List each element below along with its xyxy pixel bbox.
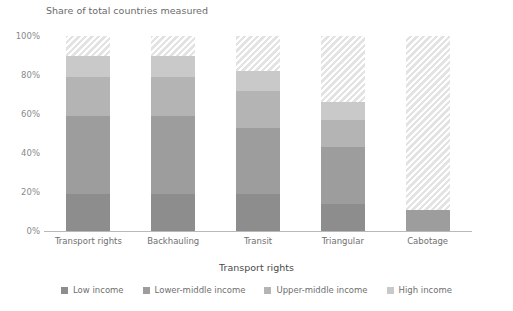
bar-segment[interactable]	[236, 36, 280, 71]
x-axis-line	[44, 231, 472, 232]
legend-label: Low income	[73, 285, 124, 295]
plot-area	[46, 36, 470, 231]
bar-group[interactable]	[66, 36, 110, 231]
bar-series-area	[46, 36, 470, 231]
legend-label: Upper-middle income	[276, 285, 367, 295]
chart-title: Share of total countries measured	[46, 5, 208, 16]
bar-group[interactable]	[321, 36, 365, 231]
x-axis-tick-label: Triangular	[322, 236, 364, 246]
bar-segment[interactable]	[151, 194, 195, 231]
chart-legend: Low incomeLower-middle incomeUpper-middl…	[0, 285, 513, 295]
bar-segment[interactable]	[321, 204, 365, 231]
legend-swatch-icon	[61, 287, 68, 294]
bar-segment[interactable]	[321, 147, 365, 204]
bar-segment[interactable]	[406, 36, 450, 210]
chart-container: Share of total countries measured 100% 8…	[0, 0, 513, 311]
legend-swatch-icon	[264, 287, 271, 294]
legend-swatch-icon	[387, 287, 394, 294]
bar-group[interactable]	[151, 36, 195, 231]
bar-segment[interactable]	[66, 36, 110, 56]
y-axis-tick-20: 20%	[21, 187, 40, 197]
x-axis-title: Transport rights	[0, 262, 513, 273]
x-axis-tick-label: Backhauling	[147, 236, 199, 246]
legend-label: Lower-middle income	[155, 285, 246, 295]
x-axis-tick-label: Transport rights	[55, 236, 122, 246]
bar-segment[interactable]	[321, 36, 365, 102]
y-axis-tick-80: 80%	[21, 70, 40, 80]
bar-segment[interactable]	[236, 194, 280, 231]
y-axis-tick-40: 40%	[21, 148, 40, 158]
y-axis-tick-100: 100%	[16, 31, 40, 41]
bar-segment[interactable]	[66, 194, 110, 231]
bar-segment[interactable]	[236, 71, 280, 91]
bar-segment[interactable]	[406, 210, 450, 231]
legend-item[interactable]: Upper-middle income	[264, 285, 367, 295]
bar-segment[interactable]	[66, 77, 110, 116]
bar-segment[interactable]	[66, 116, 110, 194]
legend-item[interactable]: High income	[387, 285, 452, 295]
legend-item[interactable]: Lower-middle income	[143, 285, 246, 295]
bar-segment[interactable]	[151, 116, 195, 194]
bar-segment[interactable]	[236, 128, 280, 194]
legend-item[interactable]: Low income	[61, 285, 124, 295]
bar-segment[interactable]	[66, 56, 110, 77]
x-axis-tick-label: Transit	[244, 236, 272, 246]
bar-segment[interactable]	[321, 120, 365, 147]
bar-segment[interactable]	[151, 56, 195, 77]
y-axis-tick-60: 60%	[21, 109, 40, 119]
bar-segment[interactable]	[321, 102, 365, 120]
legend-swatch-icon	[143, 287, 150, 294]
bar-group[interactable]	[236, 36, 280, 231]
bar-group[interactable]	[406, 36, 450, 231]
y-axis-tick-0: 0%	[27, 226, 41, 236]
x-axis-tick-label: Cabotage	[407, 236, 448, 246]
bar-segment[interactable]	[151, 36, 195, 56]
legend-label: High income	[399, 285, 452, 295]
bar-segment[interactable]	[151, 77, 195, 116]
bar-segment[interactable]	[236, 91, 280, 128]
